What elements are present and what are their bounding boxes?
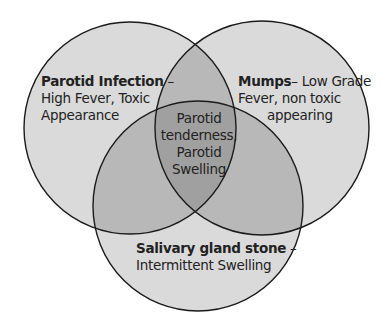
label-salivary-gland-stone: Salivary gland stone – Intermittent Swel… (136, 240, 297, 274)
label-intersection: Parotid tenderness, Parotid Swelling (155, 110, 243, 178)
title-parotid-infection: Parotid Infection (41, 73, 164, 89)
title-salivary-gland-stone: Salivary gland stone (136, 240, 286, 256)
label-mumps: Mumps– Low Grade Fever, non toxic appear… (238, 73, 371, 124)
title-mumps: Mumps (238, 73, 291, 89)
